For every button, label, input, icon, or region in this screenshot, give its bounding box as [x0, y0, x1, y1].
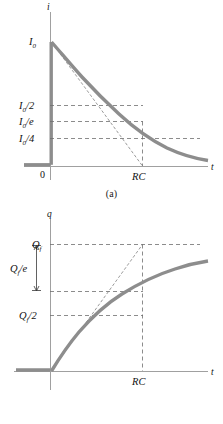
chart-a-canvas: i t I0 I0/2 I0/e I0/4 0 RC	[0, 0, 223, 212]
y-tick-label-qf-over-2: Qf/2	[19, 310, 37, 324]
rise-curve-b	[52, 261, 209, 371]
y-tick-label-i0-over-e: I0/e	[18, 116, 34, 130]
y-axis-label-b: q	[47, 209, 52, 219]
y-axis-label-a: i	[47, 2, 50, 12]
figure-a-discharging-current: i t I0 I0/2 I0/e I0/4 0 RC (a)	[0, 0, 223, 212]
y-tick-label-i0-over-2: I0/2	[18, 100, 35, 114]
x-tick-label-rc-a: RC	[131, 171, 146, 182]
origin-label-a: 0	[40, 169, 45, 180]
x-axis-label-b: t	[211, 367, 214, 377]
bracket-label-qf-over-e: Qf/e	[10, 263, 27, 277]
y-tick-label-qf: Qf	[32, 239, 43, 253]
figure-caption-a: (a)	[0, 188, 223, 199]
chart-b-canvas: q t Qf Qf/e Qf/2 RC	[0, 205, 223, 424]
y-tick-label-i0-over-4: I0/4	[18, 133, 35, 147]
tangent-line-a	[52, 42, 143, 166]
figure-b-charging-charge: q t Qf Qf/e Qf/2 RC (b)	[0, 205, 223, 424]
y-tick-label-i0: I0	[28, 36, 37, 50]
x-tick-label-rc-b: RC	[131, 376, 146, 387]
decay-curve-a	[52, 42, 209, 161]
x-axis-label-a: t	[211, 162, 214, 172]
